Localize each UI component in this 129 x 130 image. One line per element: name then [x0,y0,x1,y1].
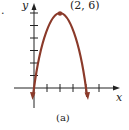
figure-prefix-mark: . [1,4,5,17]
curve-right-arrow-icon [85,92,91,100]
x-axis-label: x [116,91,122,104]
y-axis-arrow-icon [32,3,37,10]
curve-left-arrow-icon [30,92,36,100]
y-axis-label: y [22,0,28,12]
x-axis-arrow-icon [113,86,120,91]
parabola-curve [33,13,87,96]
parabola-graph [0,0,129,130]
vertex-point [58,11,62,15]
vertex-label: (2, 6) [70,0,100,12]
figure-caption: (a) [56,112,70,123]
